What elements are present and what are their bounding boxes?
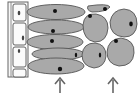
nucleus bbox=[99, 53, 101, 58]
tissue-diagram bbox=[0, 0, 140, 97]
spongy-layer bbox=[82, 5, 137, 68]
epidermis-cell bbox=[13, 23, 26, 45]
nucleus bbox=[18, 11, 21, 15]
arrow-up-icon bbox=[108, 78, 118, 93]
nucleus bbox=[88, 14, 92, 18]
palisade-layer bbox=[27, 5, 85, 75]
nucleus bbox=[58, 67, 62, 71]
spongy-cell bbox=[82, 43, 106, 68]
nucleus bbox=[50, 39, 54, 43]
palisade-cell bbox=[28, 58, 84, 74]
nucleus bbox=[18, 49, 20, 53]
palisade-cell bbox=[28, 20, 84, 34]
epidermis-layer bbox=[8, 2, 28, 77]
nucleus bbox=[75, 53, 77, 57]
nucleus bbox=[22, 36, 24, 41]
arrow-up-icon bbox=[55, 78, 65, 93]
nucleus bbox=[51, 29, 55, 33]
nucleus bbox=[103, 7, 107, 11]
spongy-cell bbox=[107, 38, 134, 66]
nucleus bbox=[114, 39, 118, 43]
spongy-cell bbox=[83, 14, 108, 42]
palisade-cell bbox=[27, 35, 83, 50]
nucleus bbox=[129, 22, 133, 27]
spongy-cell bbox=[110, 9, 137, 37]
nucleus bbox=[53, 9, 57, 13]
